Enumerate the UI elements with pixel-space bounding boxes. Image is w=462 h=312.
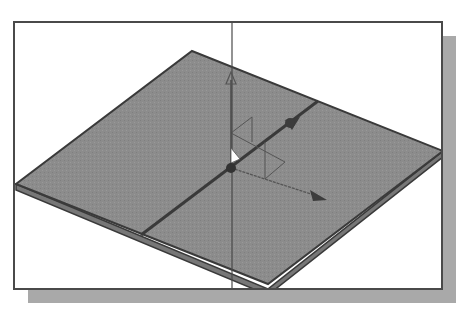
frame-shadow-bottom (28, 288, 456, 303)
origin-point[interactable] (226, 163, 236, 173)
3d-viewport-scene[interactable] (15, 23, 441, 288)
triad-z-arrow-knob (285, 118, 295, 128)
frame-shadow-right (441, 36, 456, 303)
viewport-frame[interactable] (13, 21, 443, 290)
